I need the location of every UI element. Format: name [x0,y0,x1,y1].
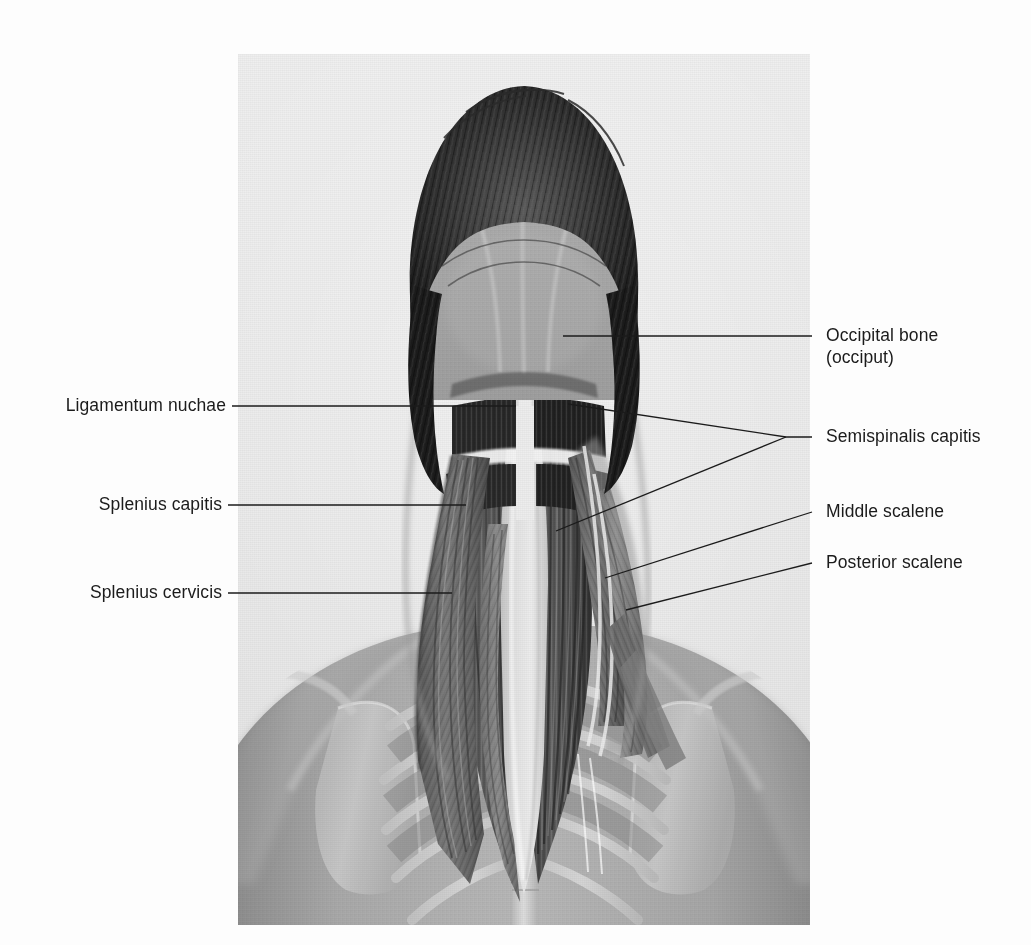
figure-root: Occipital bone (occiput) Semispinalis ca… [0,0,1031,945]
label-splenius-capitis: Splenius capitis [0,494,222,516]
anatomy-photograph [238,54,810,925]
label-ligamentum-nuchae: Ligamentum nuchae [0,395,226,417]
label-splenius-cervicis: Splenius cervicis [0,582,222,604]
label-middle-scalene: Middle scalene [826,501,944,523]
label-occipital-bone: Occipital bone (occiput) [826,325,938,368]
label-occipital-bone-line2: (occiput) [826,347,938,369]
photo-grain [238,54,810,925]
label-semispinalis-capitis: Semispinalis capitis [826,426,981,448]
label-occipital-bone-line1: Occipital bone [826,325,938,347]
label-posterior-scalene: Posterior scalene [826,552,963,574]
